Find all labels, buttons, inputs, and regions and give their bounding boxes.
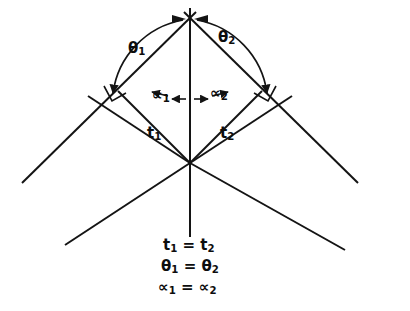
legend-alpha2-symbol: ∝ bbox=[199, 278, 210, 296]
alpha2-symbol: ∝ bbox=[210, 84, 221, 102]
t2-label: t2 bbox=[220, 126, 234, 142]
theta1-subscript: 1 bbox=[138, 46, 145, 57]
legend-t1-subscript: 1 bbox=[170, 243, 177, 254]
t1-subscript: 1 bbox=[154, 131, 161, 142]
theta2-subscript: 2 bbox=[228, 35, 235, 46]
theta1-symbol: θ bbox=[128, 39, 138, 57]
legend-t-equals: = bbox=[183, 236, 196, 254]
theta1-label: θ1 bbox=[128, 41, 145, 57]
legend-theta-equals: = bbox=[184, 257, 197, 275]
t2-subscript: 2 bbox=[227, 131, 234, 142]
legend-alpha1-subscript: 1 bbox=[169, 285, 176, 296]
upper-left-ray bbox=[88, 96, 190, 163]
legend-theta1-subscript: 1 bbox=[171, 264, 178, 275]
alpha2-label: ∝2 bbox=[210, 86, 228, 102]
legend-theta1-symbol: θ bbox=[161, 257, 171, 275]
legend-equation-t: t1 = t2 bbox=[163, 238, 215, 254]
legend-theta2-symbol: θ bbox=[201, 257, 211, 275]
alpha1-label: ∝1 bbox=[152, 88, 170, 104]
lower-left-ray bbox=[65, 163, 190, 245]
lower-right-ray bbox=[190, 163, 345, 250]
legend-alpha2-subscript: 2 bbox=[210, 285, 217, 296]
legend-equation-theta: θ1 = θ2 bbox=[161, 259, 219, 275]
upper-left-outer-line bbox=[22, 12, 196, 183]
legend-alpha-equals: = bbox=[181, 278, 194, 296]
alpha1-symbol: ∝ bbox=[152, 86, 163, 104]
alpha1-subscript: 1 bbox=[163, 93, 170, 104]
geometry-figure: θ1 θ2 ∝1 ∝2 t1 t2 t1 = t2 θ1 = θ2 ∝1 = ∝… bbox=[0, 0, 410, 311]
theta2-label: θ2 bbox=[218, 30, 235, 46]
upper-right-ray bbox=[190, 96, 292, 163]
t1-label: t1 bbox=[147, 126, 161, 142]
legend-equation-alpha: ∝1 = ∝2 bbox=[158, 280, 217, 296]
legend-theta2-subscript: 2 bbox=[212, 264, 219, 275]
theta2-symbol: θ bbox=[218, 28, 228, 46]
legend-t2-subscript: 2 bbox=[207, 243, 214, 254]
legend-alpha1-symbol: ∝ bbox=[158, 278, 169, 296]
alpha2-subscript: 2 bbox=[221, 91, 228, 102]
